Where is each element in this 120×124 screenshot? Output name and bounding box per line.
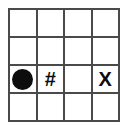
cell-content-r1c3: [65, 10, 91, 36]
grid-cell-r3c1[interactable]: [9, 65, 37, 93]
cell-content-r3c2: #: [38, 66, 64, 92]
empty-cell-icon: [77, 51, 78, 52]
cell-content-r2c4: [93, 38, 119, 64]
table-row: # X: [9, 65, 119, 93]
cell-content-r1c1: [10, 10, 36, 36]
table-row: [9, 93, 119, 121]
empty-cell-icon: [105, 23, 106, 24]
grid-cell-r1c3[interactable]: [64, 9, 92, 37]
grid-cell-r4c4[interactable]: [92, 93, 120, 121]
grid-cell-r2c2[interactable]: [37, 37, 65, 65]
empty-cell-icon: [22, 51, 23, 52]
grid-cell-r2c1[interactable]: [9, 37, 37, 65]
cell-content-r3c3: [65, 66, 91, 92]
grid-cell-r4c3[interactable]: [64, 93, 92, 121]
cell-content-r4c1: [10, 94, 36, 120]
grid-cell-r4c1[interactable]: [9, 93, 37, 121]
table-row: [9, 37, 119, 65]
empty-cell-icon: [77, 79, 78, 80]
x-symbol-icon: X: [99, 69, 112, 89]
cell-content-r1c4: [93, 10, 119, 36]
empty-cell-icon: [22, 23, 23, 24]
cell-content-r2c1: [10, 38, 36, 64]
filled-circle-icon: [12, 69, 33, 90]
grid-cell-r2c4[interactable]: [92, 37, 120, 65]
hash-symbol-icon: #: [45, 69, 56, 89]
empty-cell-icon: [77, 23, 78, 24]
empty-cell-icon: [50, 107, 51, 108]
grid-container: # X: [8, 8, 110, 112]
grid-cell-r3c3[interactable]: [64, 65, 92, 93]
empty-cell-icon: [50, 51, 51, 52]
cell-content-r3c4: X: [93, 66, 119, 92]
cell-content-r3c1: [10, 66, 36, 92]
table-row: [9, 9, 119, 37]
grid-cell-r2c3[interactable]: [64, 37, 92, 65]
empty-cell-icon: [105, 51, 106, 52]
empty-cell-icon: [22, 107, 23, 108]
cell-content-r1c2: [38, 10, 64, 36]
grid-cell-r3c2[interactable]: #: [37, 65, 65, 93]
empty-cell-icon: [77, 107, 78, 108]
cell-content-r4c4: [93, 94, 119, 120]
cell-content-r4c2: [38, 94, 64, 120]
cell-content-r4c3: [65, 94, 91, 120]
symbol-grid: # X: [8, 8, 120, 122]
empty-cell-icon: [50, 23, 51, 24]
cell-content-r2c3: [65, 38, 91, 64]
grid-cell-r1c4[interactable]: [92, 9, 120, 37]
grid-cell-r3c4[interactable]: X: [92, 65, 120, 93]
cell-content-r2c2: [38, 38, 64, 64]
grid-cell-r1c1[interactable]: [9, 9, 37, 37]
grid-cell-r4c2[interactable]: [37, 93, 65, 121]
empty-cell-icon: [105, 107, 106, 108]
grid-cell-r1c2[interactable]: [37, 9, 65, 37]
